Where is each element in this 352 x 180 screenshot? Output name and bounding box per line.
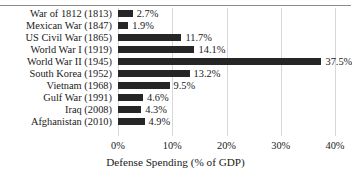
bar-value-label: 2.7% bbox=[137, 8, 159, 20]
bar-value-label: 4.6% bbox=[147, 92, 169, 104]
category-label: Vietnam (1968) bbox=[0, 80, 112, 92]
bar-rows: War of 1812 (1813)2.7%Mexican War (1847)… bbox=[0, 0, 351, 136]
bar-row: Vietnam (1968)9.5% bbox=[0, 80, 351, 92]
x-axis-tick-labels: 0%10%20%30%40% bbox=[0, 139, 351, 153]
bar bbox=[118, 70, 190, 77]
category-label: US Civil War (1865) bbox=[0, 32, 112, 44]
category-label: World War II (1945) bbox=[0, 56, 112, 68]
bar-row: World War I (1919)14.1% bbox=[0, 44, 351, 56]
bar bbox=[118, 10, 133, 17]
bar-row: World War II (1945)37.5% bbox=[0, 56, 351, 68]
bar bbox=[118, 46, 194, 53]
category-label: Iraq (2008) bbox=[0, 104, 112, 116]
category-label: South Korea (1952) bbox=[0, 68, 112, 80]
bar-value-label: 13.2% bbox=[194, 68, 221, 80]
category-label: World War I (1919) bbox=[0, 44, 112, 56]
x-tick-label: 0% bbox=[111, 139, 125, 153]
bar-row: South Korea (1952)13.2% bbox=[0, 68, 351, 80]
category-label: Mexican War (1847) bbox=[0, 20, 112, 32]
category-label: Gulf War (1991) bbox=[0, 92, 112, 104]
bar-value-label: 4.9% bbox=[149, 116, 171, 128]
x-tick-label: 10% bbox=[163, 139, 182, 153]
category-label: Afghanistan (2010) bbox=[0, 116, 112, 128]
bar bbox=[118, 34, 181, 41]
bar-value-label: 1.9% bbox=[132, 20, 154, 32]
bar-value-label: 4.3% bbox=[145, 104, 167, 116]
bar bbox=[118, 118, 145, 125]
bar-row: War of 1812 (1813)2.7% bbox=[0, 8, 351, 20]
bar-value-label: 11.7% bbox=[185, 32, 211, 44]
x-axis-title: Defense Spending (% of GDP) bbox=[0, 154, 351, 170]
bar bbox=[118, 82, 170, 89]
bar-row: Iraq (2008)4.3% bbox=[0, 104, 351, 116]
bar-value-label: 14.1% bbox=[198, 44, 225, 56]
x-tick-label: 20% bbox=[217, 139, 236, 153]
bar bbox=[118, 58, 321, 65]
bar-value-label: 37.5% bbox=[325, 56, 352, 68]
x-tick-label: 30% bbox=[271, 139, 290, 153]
bar-row: Gulf War (1991)4.6% bbox=[0, 92, 351, 104]
bar-row: Afghanistan (2010)4.9% bbox=[0, 116, 351, 128]
category-label: War of 1812 (1813) bbox=[0, 8, 112, 20]
x-tick-label: 40% bbox=[325, 139, 344, 153]
bar bbox=[118, 22, 128, 29]
bar-row: Mexican War (1847)1.9% bbox=[0, 20, 351, 32]
bar bbox=[118, 106, 141, 113]
bar bbox=[118, 94, 143, 101]
bar-row: US Civil War (1865)11.7% bbox=[0, 32, 351, 44]
bar-value-label: 9.5% bbox=[174, 80, 196, 92]
